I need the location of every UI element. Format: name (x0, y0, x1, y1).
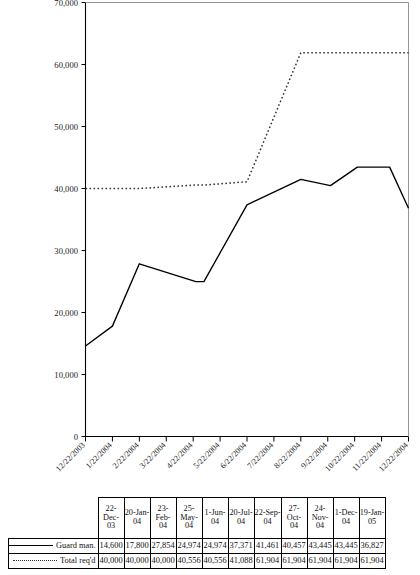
table-header-date: 20-Jul- 04 (228, 498, 254, 539)
table-row: Guard man.14,60017,80027,85424,97424,974… (9, 539, 386, 554)
table-cell-value: 40,000 (124, 554, 150, 569)
chart-svg: 010,00020,00030,00040,00050,00060,00070,… (0, 0, 420, 500)
header-date-text: 25- May- 04 (177, 505, 202, 532)
x-tick-label: 5/22/2004 (192, 441, 222, 471)
table-header-date: 1-Jun- 04 (202, 498, 228, 539)
table-cell-value: 27,854 (150, 539, 176, 554)
table-cell-value: 61,904 (307, 554, 333, 569)
y-tick-label: 30,000 (54, 246, 78, 256)
header-date-text: 24- Nov- 04 (308, 505, 333, 532)
x-tick-label: 8/22/2004 (272, 441, 302, 471)
header-date-text: 19-Jan- 05 (360, 509, 385, 527)
x-tick-label: 12/22/2004 (377, 441, 410, 474)
legend-cell: Guard man. (9, 539, 99, 554)
y-axis: 010,00020,00030,00040,00050,00060,00070,… (54, 0, 85, 442)
table-cell-value: 40,556 (202, 554, 228, 569)
table-cell-value: 61,904 (359, 554, 385, 569)
header-date-text: 22-Sep- 04 (255, 509, 281, 527)
table-header-date: 19-Jan- 05 (359, 498, 385, 539)
table-cell-value: 61,904 (254, 554, 281, 569)
series-line-guard-man (86, 167, 409, 346)
table-cell-value: 40,556 (176, 554, 202, 569)
y-tick-label: 40,000 (54, 184, 78, 194)
legend-line-swatch (13, 558, 57, 564)
table-cell-value: 17,800 (124, 539, 150, 554)
chart-root: 010,00020,00030,00040,00050,00060,00070,… (0, 0, 420, 575)
table-cell-value: 61,904 (333, 554, 359, 569)
table-cell-value: 24,974 (202, 539, 228, 554)
y-tick-label: 60,000 (54, 60, 78, 70)
table-header-date: 25- May- 04 (176, 498, 202, 539)
y-tick-label: 70,000 (54, 0, 78, 8)
table-corner-cell (9, 498, 99, 539)
table-cell-value: 41,088 (228, 554, 254, 569)
table-cell-value: 14,600 (98, 539, 124, 554)
x-tick-label: 7/22/2004 (245, 441, 275, 471)
y-tick-label: 0 (74, 432, 78, 442)
header-date-text: 23-Feb- 04 (151, 505, 176, 532)
table-cell-value: 41,461 (254, 539, 281, 554)
table-cell-value: 40,000 (98, 554, 124, 569)
table-header-date: 22-Sep- 04 (254, 498, 281, 539)
table-cell-value: 40,457 (281, 539, 307, 554)
y-tick-label: 10,000 (54, 370, 78, 380)
header-date-text: 22-Dec- 03 (99, 505, 124, 532)
table-header-date: 22-Dec- 03 (98, 498, 124, 539)
x-tick-label: 12/22/2003 (54, 441, 87, 474)
line-chart-plot: 010,00020,00030,00040,00050,00060,00070,… (0, 0, 420, 500)
table-cell-value: 24,974 (176, 539, 202, 554)
table-header-date: 20-Jan- 04 (124, 498, 150, 539)
series-line-total-req-d (86, 53, 409, 189)
header-date-text: 20-Jan- 04 (125, 509, 150, 527)
table-header-date: 24- Nov- 04 (307, 498, 333, 539)
x-tick-label: 6/22/2004 (219, 441, 249, 471)
table-header-date: 27-Oct- 04 (281, 498, 307, 539)
legend-cell: Total req'd (9, 554, 99, 569)
x-tick-label: 3/22/2004 (138, 441, 168, 471)
y-tick-label: 20,000 (54, 308, 78, 318)
table-row: Total req'd40,00040,00040,00040,55640,55… (9, 554, 386, 569)
header-date-text: 1-Jun- 04 (203, 509, 228, 527)
x-tick-labels: 12/22/20031/22/20042/22/20043/22/20044/2… (54, 441, 410, 474)
plot-border (86, 3, 409, 437)
legend-label: Guard man. (56, 541, 96, 550)
table-header-date: 23-Feb- 04 (150, 498, 176, 539)
header-date-text: 20-Jul- 04 (229, 509, 254, 527)
data-table: 22-Dec- 0320-Jan- 0423-Feb- 0425- May- 0… (8, 497, 386, 569)
legend-line-swatch (9, 543, 53, 549)
table-cell-value: 43,445 (307, 539, 333, 554)
x-tick-label: 1/22/2004 (84, 441, 114, 471)
header-date-text: 27-Oct- 04 (282, 505, 307, 532)
table-cell-value: 36,827 (359, 539, 385, 554)
table-cell-value: 43,445 (333, 539, 359, 554)
x-tick-label: 2/22/2004 (111, 441, 141, 471)
legend-label: Total req'd (60, 556, 96, 565)
table-cell-value: 37,371 (228, 539, 254, 554)
header-date-text: 1-Dec- 04 (334, 509, 359, 527)
table-cell-value: 61,904 (281, 554, 307, 569)
table-header-date: 1-Dec- 04 (333, 498, 359, 539)
y-tick-label: 50,000 (54, 122, 78, 132)
table-cell-value: 40,000 (150, 554, 176, 569)
table-header-row: 22-Dec- 0320-Jan- 0423-Feb- 0425- May- 0… (9, 498, 386, 539)
x-tick-label: 4/22/2004 (165, 441, 195, 471)
data-series (86, 53, 409, 346)
